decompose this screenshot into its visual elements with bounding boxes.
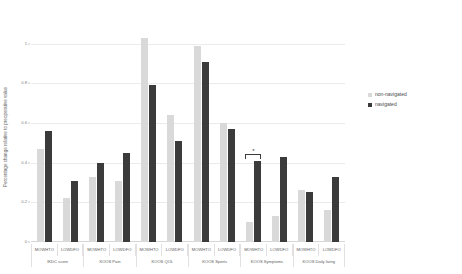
x-axis-subgroup-label: MOWHTO <box>83 244 109 256</box>
x-axis-subgroup-label: MOWHTO <box>31 244 57 256</box>
x-axis-group-label: KOOS QOL <box>136 256 188 267</box>
x-axis-group: MOWHTOLOWDFOKOOS Daily living <box>293 244 345 274</box>
y-tick-label: 1 <box>25 42 27 46</box>
y-tick-mark <box>28 242 30 243</box>
bar-subgroup <box>214 28 240 242</box>
y-tick-label: 0.6 <box>21 121 27 125</box>
bar-subgroup <box>110 28 136 242</box>
bar-non-navigated[interactable] <box>272 216 279 242</box>
bar-subgroup <box>31 28 57 242</box>
bar-non-navigated[interactable] <box>115 181 122 242</box>
bar-non-navigated[interactable] <box>324 210 331 242</box>
x-axis-subgroup-label: LOWDFO <box>318 244 345 256</box>
x-axis-subgroup-label: MOWHTO <box>293 244 319 256</box>
bar-subgroup <box>319 28 345 242</box>
x-axis-group-label: IKDC score <box>31 256 83 267</box>
bar-non-navigated[interactable] <box>220 123 227 242</box>
x-axis-subgroup-label: LOWDFO <box>57 244 84 256</box>
x-axis-subgroup-row: MOWHTOLOWDFO <box>240 244 292 256</box>
bar-subgroup <box>188 28 214 242</box>
x-axis-subgroup-label: MOWHTO <box>240 244 266 256</box>
x-axis-subgroup-label: LOWDFO <box>161 244 188 256</box>
bar-subgroup <box>57 28 83 242</box>
bar-non-navigated[interactable] <box>37 149 44 242</box>
bar-navigated[interactable] <box>228 129 235 242</box>
x-axis-subgroup-label: LOWDFO <box>214 244 241 256</box>
x-axis-subgroup-row: MOWHTOLOWDFO <box>293 244 345 256</box>
y-tick-label: 0 <box>25 240 27 244</box>
x-axis-group: MOWHTOLOWDFOKOOS Symptoms <box>240 244 292 274</box>
bar-chart: Percentage change relative to preoperati… <box>0 0 462 274</box>
bar-navigated[interactable] <box>45 131 52 242</box>
x-axis-group-label: KOOS Daily living <box>293 256 345 267</box>
y-tick-mark <box>28 83 30 84</box>
bar-group <box>188 28 240 242</box>
bar-subgroup <box>136 28 162 242</box>
bar-group <box>136 28 188 242</box>
x-axis-subgroup-row: MOWHTOLOWDFO <box>136 244 188 256</box>
y-tick-label: 0.4 <box>21 161 27 165</box>
bar-non-navigated[interactable] <box>167 115 174 242</box>
bar-non-navigated[interactable] <box>194 46 201 242</box>
legend-swatch-icon <box>368 103 372 107</box>
significance-bracket-icon <box>245 154 261 159</box>
bar-navigated[interactable] <box>123 153 130 242</box>
legend-item-navigated: navigated <box>368 102 407 107</box>
x-axis-group: MOWHTOLOWDFOKOOS QOL <box>136 244 188 274</box>
bar-navigated[interactable] <box>280 157 287 242</box>
bar-group: * <box>240 28 292 242</box>
y-tick-mark <box>28 123 30 124</box>
significance-asterisk: * <box>245 148 261 154</box>
y-tick-label: 0.8 <box>21 81 27 85</box>
bar-non-navigated[interactable] <box>89 177 96 242</box>
bar-group <box>31 28 83 242</box>
bar-non-navigated[interactable] <box>246 222 253 242</box>
bar-group <box>293 28 345 242</box>
x-axis-subgroup-label: MOWHTO <box>136 244 162 256</box>
x-axis-subgroup-label: LOWDFO <box>109 244 136 256</box>
legend-item-non-navigated: non-navigated <box>368 92 407 97</box>
legend-label: non-navigated <box>375 92 407 97</box>
x-axis-group: MOWHTOLOWDFOIKDC score <box>31 244 83 274</box>
y-tick-mark <box>28 162 30 163</box>
legend-swatch-icon <box>368 93 372 97</box>
bar-navigated[interactable] <box>202 62 209 242</box>
bar-subgroup <box>162 28 188 242</box>
bar-non-navigated[interactable] <box>298 190 305 242</box>
y-tick-mark <box>28 43 30 44</box>
legend-label: navigated <box>375 102 397 107</box>
bar-navigated[interactable] <box>306 192 313 242</box>
bar-groups: * <box>31 28 345 242</box>
plot-area: 00.20.40.60.81 * <box>31 28 345 242</box>
bar-subgroup <box>293 28 319 242</box>
x-axis-subgroup-label: LOWDFO <box>266 244 293 256</box>
bar-navigated[interactable] <box>97 163 104 242</box>
bar-navigated[interactable] <box>254 161 261 242</box>
x-axis-subgroup-row: MOWHTOLOWDFO <box>31 244 83 256</box>
bar-subgroup <box>83 28 109 242</box>
bar-non-navigated[interactable] <box>63 198 70 242</box>
bar-navigated[interactable] <box>332 177 339 242</box>
x-axis-group: MOWHTOLOWDFOKOOS Sports <box>188 244 240 274</box>
y-tick-label: 0.2 <box>21 200 27 204</box>
bar-non-navigated[interactable] <box>141 38 148 242</box>
bar-subgroup: * <box>240 28 266 242</box>
y-tick-mark <box>28 202 30 203</box>
x-axis-subgroup-label: MOWHTO <box>188 244 214 256</box>
x-axis-group-label: KOOS Pain <box>83 256 135 267</box>
x-axis-group: MOWHTOLOWDFOKOOS Pain <box>83 244 135 274</box>
bar-navigated[interactable] <box>175 141 182 242</box>
bar-navigated[interactable] <box>71 181 78 242</box>
bar-group <box>83 28 135 242</box>
x-axis-labels: MOWHTOLOWDFOIKDC scoreMOWHTOLOWDFOKOOS P… <box>31 244 345 274</box>
chart-legend: non-navigated navigated <box>368 92 407 107</box>
bar-navigated[interactable] <box>149 85 156 242</box>
y-axis-title: Percentage change relative to preoperati… <box>4 52 9 222</box>
x-axis-group-label: KOOS Sports <box>188 256 240 267</box>
x-axis-subgroup-row: MOWHTOLOWDFO <box>188 244 240 256</box>
bar-subgroup <box>266 28 292 242</box>
x-axis-group-label: KOOS Symptoms <box>240 256 292 267</box>
x-axis-subgroup-row: MOWHTOLOWDFO <box>83 244 135 256</box>
